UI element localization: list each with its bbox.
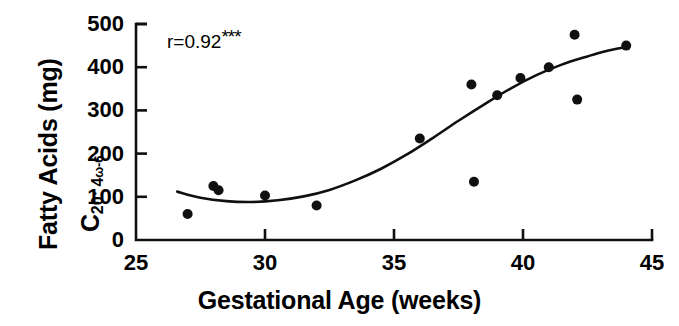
y-tick-label: 100 xyxy=(78,186,124,208)
y-tick-label: 0 xyxy=(78,229,124,251)
data-point xyxy=(312,200,322,210)
y-tick-label: 400 xyxy=(78,56,124,78)
data-point xyxy=(570,30,580,40)
x-tick-label: 40 xyxy=(500,252,546,274)
data-point xyxy=(183,209,193,219)
data-point xyxy=(260,191,270,201)
x-tick-label: 45 xyxy=(629,252,675,274)
data-points-group xyxy=(183,30,632,219)
data-point xyxy=(466,79,476,89)
data-point xyxy=(415,133,425,143)
data-point xyxy=(515,73,525,83)
data-point xyxy=(572,95,582,105)
data-point xyxy=(469,177,479,187)
fit-curve-group xyxy=(177,47,626,202)
data-point xyxy=(621,41,631,51)
data-point xyxy=(214,185,224,195)
x-tick-label: 30 xyxy=(242,252,288,274)
y-tick-label: 500 xyxy=(78,13,124,35)
x-tick-label: 25 xyxy=(113,252,159,274)
y-tick-label: 300 xyxy=(78,99,124,121)
x-tick-label: 35 xyxy=(371,252,417,274)
y-tick-label: 200 xyxy=(78,143,124,165)
axes-group xyxy=(136,24,652,240)
data-point xyxy=(492,90,502,100)
data-point xyxy=(544,62,554,72)
scatter-chart-figure: Fatty Acids (mg) C20: 4ω-6 r=0.92*** Ges… xyxy=(0,0,679,326)
